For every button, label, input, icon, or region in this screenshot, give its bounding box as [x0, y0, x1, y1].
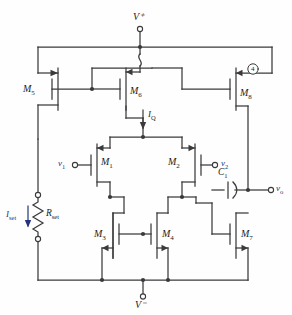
- transistor-m7: [182, 197, 248, 280]
- v2-index: 2: [225, 163, 228, 170]
- m3-index: 3: [102, 234, 106, 242]
- label-v1: v1: [58, 159, 65, 170]
- rset-index: set: [52, 213, 59, 220]
- label-iset: Iset: [6, 210, 16, 221]
- gate-bus-to-vplus-branch: [92, 57, 152, 89]
- c1-index: 1: [224, 172, 227, 179]
- label-v2: v2: [221, 159, 228, 170]
- transistor-m3: [100, 197, 143, 282]
- iset-index: set: [9, 214, 16, 221]
- label-rset: Rset: [46, 209, 59, 220]
- label-m4: M4: [162, 229, 174, 242]
- label-vo: vo: [276, 184, 283, 195]
- label-m5: M5: [23, 84, 35, 97]
- schematic-canvas: [0, 0, 292, 315]
- iq-index: Q: [151, 114, 156, 121]
- output-net: [248, 187, 274, 192]
- m7-index: 7: [249, 234, 253, 242]
- m4-index: 4: [170, 234, 174, 242]
- label-m6: M6: [130, 86, 142, 99]
- label-m8: M8: [240, 88, 252, 101]
- iset-arrow: [25, 206, 31, 228]
- label-m3: M3: [94, 229, 106, 242]
- schematic-svg: [0, 0, 292, 315]
- m5-index: 5: [31, 89, 35, 97]
- transistor-m2: [143, 137, 218, 199]
- vminus-rail: [38, 278, 248, 299]
- resistor-rset: [33, 139, 43, 280]
- transistor-m5: [38, 47, 58, 139]
- m8-index: 8: [248, 93, 252, 101]
- m6-index: 6: [138, 91, 142, 99]
- m1-index: 1: [109, 162, 113, 170]
- callout-4-label: 4: [251, 66, 255, 73]
- capacitor-c1: [212, 182, 250, 234]
- label-iq: IQ: [148, 110, 156, 121]
- v1-index: 1: [62, 163, 65, 170]
- vo-index: o: [280, 188, 283, 195]
- label-m1: M1: [101, 157, 113, 170]
- iq-arrow: [140, 110, 146, 130]
- label-vplus: V⁺: [133, 12, 144, 22]
- label-m2: M2: [168, 157, 180, 170]
- label-vminus: V⁻: [135, 300, 146, 310]
- vplus-rail: [38, 26, 272, 49]
- label-m7: M7: [241, 229, 253, 242]
- circuit-schematic-figure: V⁺ V⁻ M5 M6 M8 M1 M2 M3 M4 M7 Rset C1 Is…: [0, 0, 292, 315]
- m2-index: 2: [176, 162, 180, 170]
